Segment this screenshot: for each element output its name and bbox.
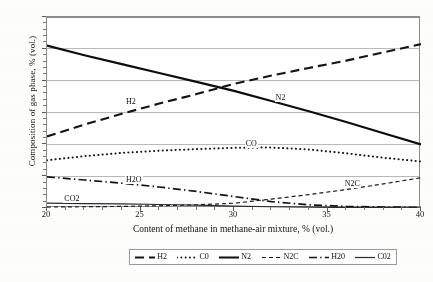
x-tick-mark-minor — [102, 207, 103, 210]
legend-label: H20 — [331, 253, 345, 261]
x-tick-label: 30 — [213, 210, 253, 219]
series-line-n2c — [47, 178, 421, 207]
legend-item-n2c[interactable]: N2C — [262, 253, 299, 261]
x-tick-label: 25 — [120, 210, 160, 219]
x-tick-mark — [420, 207, 421, 211]
series-line-n2 — [47, 46, 421, 145]
figure-canvas: Composition of gas phase, % (vol.) 01020… — [0, 0, 433, 282]
legend-item-h2[interactable]: H2 — [135, 253, 167, 261]
x-tick-label: 20 — [26, 210, 66, 219]
legend-swatch-co — [177, 254, 197, 261]
x-tick-label: 40 — [400, 210, 433, 219]
plot-area: H2CON2N2CH2OCO2 — [46, 16, 420, 207]
x-tick-mark-minor — [383, 207, 384, 210]
x-tick-mark-minor — [289, 207, 290, 210]
x-tick-mark-minor — [196, 207, 197, 210]
legend-swatch-n2c — [262, 254, 282, 261]
x-tick-mark-minor — [364, 207, 365, 210]
legend-item-n2[interactable]: N2 — [219, 253, 251, 261]
x-tick-mark-minor — [177, 207, 178, 210]
inline-label-h2o: H2O — [125, 176, 143, 184]
inline-label-n2: N2 — [275, 94, 287, 102]
chart-legend: H2C0N2N2CH20C02 — [129, 249, 397, 265]
y-axis-label: Composition of gas phase, % (vol.) — [27, 6, 37, 196]
x-tick-mark-minor — [214, 207, 215, 210]
x-tick-mark-minor — [401, 207, 402, 210]
legend-swatch-h2 — [135, 254, 155, 261]
x-tick-mark-minor — [270, 207, 271, 210]
x-axis-label: Content of methane in methane-air mixtur… — [46, 224, 420, 235]
legend-swatch-co2 — [355, 254, 375, 261]
legend-item-co[interactable]: C0 — [177, 253, 208, 261]
inline-label-h2: H2 — [125, 98, 137, 106]
x-tick-mark-minor — [158, 207, 159, 210]
legend-label: C0 — [199, 253, 208, 261]
x-tick-mark-minor — [121, 207, 122, 210]
legend-swatch-n2 — [219, 254, 239, 261]
x-tick-label: 35 — [307, 210, 347, 219]
x-tick-mark-minor — [252, 207, 253, 210]
legend-label: H2 — [157, 253, 167, 261]
legend-label: N2 — [241, 253, 251, 261]
x-tick-mark — [233, 207, 234, 211]
series-line-co — [47, 148, 421, 162]
series-line-h2o — [47, 177, 421, 208]
x-tick-mark-minor — [308, 207, 309, 210]
legend-label: C02 — [377, 253, 390, 261]
legend-label: N2C — [284, 253, 299, 261]
legend-item-h2o[interactable]: H20 — [309, 253, 345, 261]
scan-stray-text — [0, 268, 150, 277]
legend-swatch-h2o — [309, 254, 329, 261]
x-tick-mark — [46, 207, 47, 211]
x-tick-mark-minor — [345, 207, 346, 210]
series-lines — [47, 17, 421, 208]
legend-item-co2[interactable]: C02 — [355, 253, 390, 261]
x-tick-mark-minor — [65, 207, 66, 210]
inline-label-n2c: N2C — [344, 180, 361, 188]
inline-label-co: CO — [245, 140, 258, 148]
x-tick-mark-minor — [83, 207, 84, 210]
x-tick-mark — [327, 207, 328, 211]
x-tick-mark — [140, 207, 141, 211]
inline-label-co2: CO2 — [63, 195, 80, 203]
